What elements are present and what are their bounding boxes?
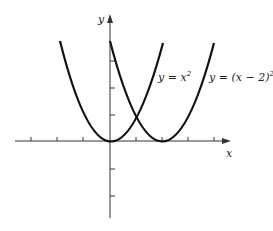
y-ticks [110,61,115,196]
curve1-label: y = x2 [157,70,192,84]
curve-y-equals-x-minus-2-squared [110,41,214,142]
x-axis-label: x [226,147,233,160]
curve-y-equals-x-squared [60,41,163,142]
y-axis-arrow-icon [107,14,113,23]
y-axis-label: y [97,13,105,26]
curve2-label: y = (x − 2)2 [208,70,273,84]
x-axis-arrow-icon [222,138,231,144]
graph: y x y = x2 y = (x − 2)2 [0,0,273,231]
